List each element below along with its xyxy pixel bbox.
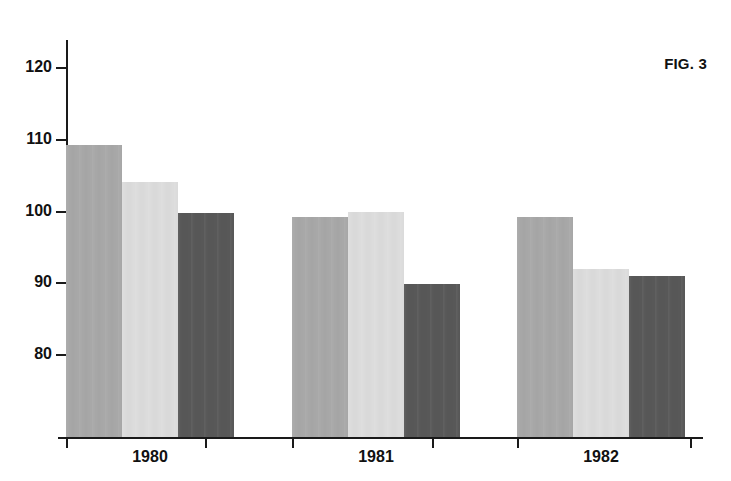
- x-axis-tick: [517, 437, 519, 448]
- y-axis-tick-label: 100: [6, 203, 52, 219]
- x-axis-tick: [690, 437, 692, 448]
- y-axis-tick-label-wrap: 110: [0, 131, 52, 147]
- figure-root: FIG. 3 1201101009080 198019811982: [0, 0, 731, 481]
- x-axis-tick: [66, 437, 68, 448]
- y-axis-tick-label: 110: [6, 131, 52, 147]
- bar-1981-series-1[interactable]: [292, 217, 348, 437]
- x-axis-group-label: 1980: [110, 448, 190, 466]
- x-axis-tick: [205, 437, 207, 448]
- bar-1982-series-1[interactable]: [517, 217, 573, 437]
- x-axis-tick: [432, 437, 434, 448]
- bar-1981-series-2[interactable]: [348, 212, 404, 437]
- x-axis-line: [58, 437, 703, 439]
- bar-chart-plot-area: 1201101009080 198019811982: [0, 0, 731, 481]
- y-axis-tick-label: 90: [6, 274, 52, 290]
- x-axis-tick: [292, 437, 294, 448]
- x-axis-group-label: 1981: [336, 448, 416, 466]
- bar-1980-series-3[interactable]: [178, 213, 234, 437]
- y-axis-tick-label: 120: [6, 59, 52, 75]
- bar-1982-series-2[interactable]: [573, 269, 629, 437]
- y-axis-tick-label-wrap: 80: [0, 346, 52, 362]
- y-axis-tick-label: 80: [6, 346, 52, 362]
- x-axis-group-label: 1982: [561, 448, 641, 466]
- bar-1982-series-3[interactable]: [629, 276, 685, 437]
- y-axis-tick-label-wrap: 100: [0, 203, 52, 219]
- bar-1980-series-1[interactable]: [66, 145, 122, 437]
- y-axis-tick: [56, 139, 68, 141]
- bar-1981-series-3[interactable]: [404, 284, 460, 437]
- bar-1980-series-2[interactable]: [122, 182, 178, 437]
- y-axis-tick: [56, 67, 68, 69]
- y-axis-tick-label-wrap: 120: [0, 59, 52, 75]
- y-axis-tick-label-wrap: 90: [0, 274, 52, 290]
